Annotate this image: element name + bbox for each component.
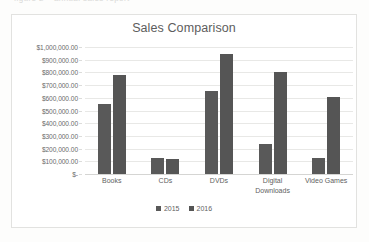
- bar-2015[interactable]: [259, 144, 272, 174]
- y-axis-tick-label: $700,000.00: [42, 82, 78, 89]
- y-axis-tick-label: $800,000.00: [42, 69, 78, 76]
- plot-area: [85, 47, 353, 174]
- y-axis-tick: [79, 85, 82, 86]
- y-axis-tick-label: $600,000.00: [42, 94, 78, 101]
- y-axis-labels: $1,000,000.00$900,000.00$800,000.00$700,…: [12, 47, 82, 174]
- scan-cutoff-label: figure 2 – annual sales report: [14, 0, 130, 3]
- bar-2016[interactable]: [220, 54, 233, 174]
- y-axis-tick-label: $100,000.00: [42, 158, 78, 165]
- x-axis-category-label: Digital Downloads: [246, 176, 300, 195]
- bar-group: [246, 47, 300, 174]
- x-axis-category-label: CDs: [139, 176, 193, 195]
- y-axis-tick: [79, 47, 82, 48]
- y-axis-tick-label: $-: [72, 171, 78, 178]
- chart-legend: 20152016: [12, 205, 356, 212]
- bar-group: [192, 47, 246, 174]
- y-axis-tick: [79, 161, 82, 162]
- gridline: [85, 174, 353, 175]
- legend-swatch-icon: [189, 206, 194, 211]
- bar-2015[interactable]: [98, 104, 111, 174]
- legend-label: 2015: [164, 205, 180, 212]
- bar-2016[interactable]: [274, 72, 287, 174]
- bar-2016[interactable]: [166, 159, 179, 174]
- chart-title: Sales Comparison: [12, 21, 356, 35]
- x-axis-category-label: Books: [85, 176, 139, 195]
- bar-2016[interactable]: [327, 97, 340, 174]
- y-axis-tick: [79, 149, 82, 150]
- x-axis-category-label: Video Games: [299, 176, 353, 195]
- bar-2015[interactable]: [312, 158, 325, 175]
- y-axis-tick: [79, 72, 82, 73]
- bar-2016[interactable]: [113, 75, 126, 174]
- bar-2015[interactable]: [205, 91, 218, 174]
- bar-group: [299, 47, 353, 174]
- y-axis-tick: [79, 111, 82, 112]
- y-axis-tick-label: $300,000.00: [42, 132, 78, 139]
- y-axis-tick: [79, 136, 82, 137]
- legend-item-2015[interactable]: 2015: [156, 205, 180, 212]
- legend-item-2016[interactable]: 2016: [189, 205, 213, 212]
- y-axis-tick-label: $900,000.00: [42, 56, 78, 63]
- y-axis-tick-label: $1,000,000.00: [36, 44, 78, 51]
- legend-swatch-icon: [156, 206, 161, 211]
- x-axis-category-label: DVDs: [192, 176, 246, 195]
- y-axis-tick-label: $200,000.00: [42, 145, 78, 152]
- y-axis-tick: [79, 174, 82, 175]
- y-axis-tick-label: $500,000.00: [42, 107, 78, 114]
- y-axis-tick-label: $400,000.00: [42, 120, 78, 127]
- y-axis-tick: [79, 60, 82, 61]
- y-axis-tick: [79, 98, 82, 99]
- bar-group: [85, 47, 139, 174]
- scan-top-cutoff-text: figure 2 – annual sales report: [0, 0, 369, 9]
- legend-label: 2016: [197, 205, 213, 212]
- bar-groups: [85, 47, 353, 174]
- bar-group: [139, 47, 193, 174]
- x-axis-labels: BooksCDsDVDsDigital DownloadsVideo Games: [85, 176, 353, 195]
- y-axis-tick: [79, 123, 82, 124]
- bar-2015[interactable]: [151, 158, 164, 174]
- chart-container[interactable]: Sales Comparison $1,000,000.00$900,000.0…: [11, 14, 357, 228]
